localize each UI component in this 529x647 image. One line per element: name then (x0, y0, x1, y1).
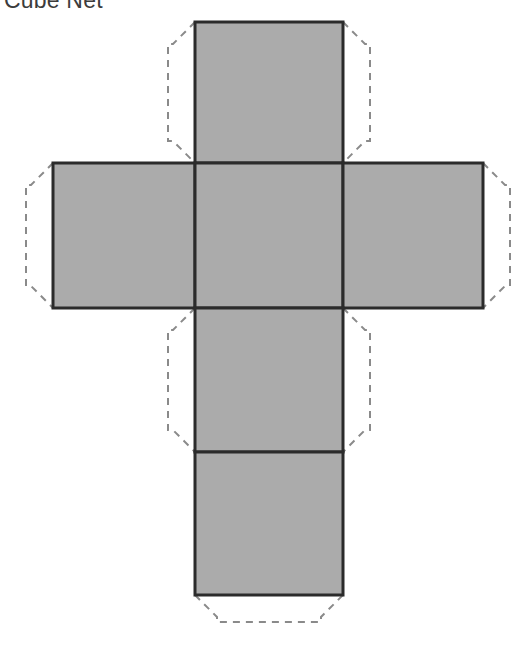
tab-lower-middle-left (168, 308, 195, 452)
tab-right-right (483, 163, 510, 308)
face-top: Top face (195, 22, 343, 163)
tab-top-right (343, 22, 370, 163)
face-left: Left face (53, 163, 195, 308)
tab-lower-middle-right (343, 308, 370, 452)
cube-net-figure: Top faceLeft faceCenter faceRight faceLo… (0, 0, 529, 647)
face-right: Right face (343, 163, 483, 308)
face-lower-middle: Lower middle face (195, 308, 343, 452)
page-title: Cube Net (4, 0, 103, 14)
diagram-canvas: Cube Net Top faceLeft faceCenter faceRig… (0, 0, 529, 647)
face-bottom: Bottom face (195, 452, 343, 595)
tab-top-left (168, 22, 195, 163)
cube-faces-group: Top faceLeft faceCenter faceRight faceLo… (53, 22, 483, 595)
tab-left-left (26, 163, 53, 308)
face-center: Center face (195, 163, 343, 308)
tab-bottom-bottom (195, 595, 343, 622)
